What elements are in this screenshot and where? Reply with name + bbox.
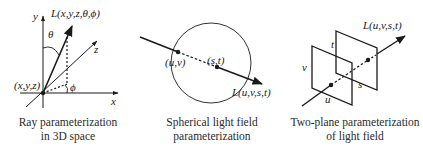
caption-line-2: of light field (285, 129, 423, 143)
ray-label: L(x,y,z,θ,ϕ) (50, 7, 100, 20)
t-label: t (331, 38, 335, 50)
panel-two-plane: L(u,v,s,t) t v s u (302, 19, 405, 106)
st-intersection (366, 58, 370, 62)
panel-spherical: (u,v) (s,t) L(u,v,s,t) (140, 23, 271, 103)
panel-ray-3d: y L(x,y,z,θ,ϕ) θ z (x,y,z) ϕ x (14, 7, 118, 108)
caption-line-2: in 3D space (0, 129, 138, 143)
caption-line-1: Ray parameterization (0, 115, 138, 129)
ray-label: L(u,v,s,t) (362, 19, 402, 32)
v-label: v (302, 61, 307, 73)
ray-label: L(u,v,s,t) (231, 86, 271, 99)
caption-line-1: Spherical light field (142, 115, 282, 129)
phi-label: ϕ (70, 81, 76, 93)
st-plane (336, 31, 377, 90)
phi-arc (65, 85, 68, 93)
s-label: s (358, 78, 362, 90)
origin-point (41, 91, 45, 95)
theta-arc (43, 47, 59, 55)
uv-plane (312, 46, 352, 105)
entry-point-label: (u,v) (165, 56, 186, 69)
y-axis-label: y (32, 10, 38, 22)
caption-line-2: parameterization (142, 129, 282, 143)
outgoing-ray-visible (377, 36, 405, 54)
caption-spherical: Spherical light field parameterization (142, 115, 282, 143)
entry-point (176, 50, 180, 54)
origin-label: (x,y,z) (14, 79, 41, 92)
outgoing-ray (217, 67, 262, 84)
incoming-ray (140, 37, 178, 52)
caption-two-plane: Two-plane parameterization of light fiel… (285, 115, 423, 143)
u-label: u (325, 93, 331, 105)
caption-ray-3d: Ray parameterization in 3D space (0, 115, 138, 143)
z-axis-label: z (93, 43, 99, 55)
uv-intersection (329, 83, 333, 87)
caption-line-1: Two-plane parameterization (285, 115, 423, 129)
x-axis-label: x (110, 95, 116, 107)
exit-point-label: (s,t) (207, 54, 225, 67)
theta-label: θ (48, 28, 54, 40)
